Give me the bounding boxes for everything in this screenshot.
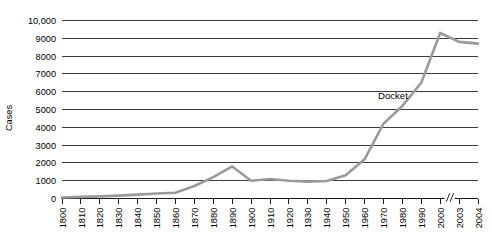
- y-axis-tick-label: 6000: [36, 87, 56, 97]
- x-axis-tick-label: 1810: [76, 208, 87, 229]
- gridlines: [62, 21, 478, 181]
- x-axis-tick-label: 1930: [302, 208, 313, 229]
- x-axis-tick-label: 1820: [94, 208, 105, 229]
- x-axis-tick-label: 1850: [151, 208, 162, 229]
- y-axis-tick-label: 3000: [36, 141, 56, 151]
- x-axis-tick-label: 2000: [435, 208, 446, 229]
- y-axis-tick-label: 9000: [36, 34, 56, 44]
- x-axis-tick-label: 1840: [132, 208, 143, 229]
- x-axis-tick-label: 1900: [246, 208, 257, 229]
- x-axis-tick-labels: 1800181018201830184018501860187018801890…: [57, 208, 484, 229]
- x-axis-tick-label: 1940: [321, 208, 332, 229]
- data-line: [62, 33, 478, 197]
- x-axis-tick-label: 2003: [454, 208, 465, 229]
- x-axis-tick-label: 2004: [473, 208, 484, 229]
- annotation-label: Docket: [378, 90, 408, 101]
- y-axis-tick-labels: 010002000300040005000600070008000900010,…: [28, 16, 56, 204]
- chart-container: 010002000300040005000600070008000900010,…: [0, 0, 492, 250]
- line-chart: 010002000300040005000600070008000900010,…: [0, 0, 492, 250]
- y-axis-title: Cases: [4, 105, 14, 131]
- y-axis-tick-label: 10,000: [28, 16, 56, 26]
- x-axis-tick-label: 1830: [113, 208, 124, 229]
- x-axis-tick-label: 1800: [57, 208, 68, 229]
- x-axis-tick-label: 1980: [397, 208, 408, 229]
- x-axis-tick-label: 1950: [340, 208, 351, 229]
- x-axis-tick-label: 1990: [416, 208, 427, 229]
- y-axis-tick-label: 8000: [36, 52, 56, 62]
- y-axis-tick-label: 0: [51, 194, 56, 204]
- x-axis-tick-label: 1870: [189, 208, 200, 229]
- x-axis-tick-label: 1860: [170, 208, 181, 229]
- x-axis-tick-label: 1970: [378, 208, 389, 229]
- x-axis-tick-marks: [62, 199, 478, 205]
- x-axis-tick-label: 1880: [208, 208, 219, 229]
- x-axis-tick-label: 1910: [265, 208, 276, 229]
- y-axis-tick-label: 5000: [36, 105, 56, 115]
- x-axis-tick-label: 1960: [359, 208, 370, 229]
- y-axis-tick-label: 7000: [36, 69, 56, 79]
- axis-break-icon: [445, 193, 455, 203]
- series-annotation-docket: Docket: [378, 90, 408, 101]
- y-axis-tick-label: 1000: [36, 176, 56, 186]
- x-axis-tick-label: 1920: [284, 208, 295, 229]
- y-axis-tick-label: 4000: [36, 123, 56, 133]
- data-series-docket: [62, 33, 478, 197]
- y-axis-tick-label: 2000: [36, 158, 56, 168]
- x-axis-tick-label: 1890: [227, 208, 238, 229]
